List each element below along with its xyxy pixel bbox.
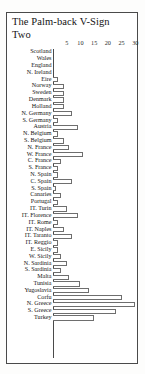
bar: [53, 179, 72, 184]
x-axis-tick-5: 5: [65, 39, 68, 46]
bar: [53, 261, 67, 266]
bar-row: C. Spain: [7, 178, 139, 185]
x-axis-tick-20: 20: [105, 39, 111, 46]
bar-row: N. Spain: [7, 172, 139, 179]
bar: [53, 145, 69, 150]
bar-row: N. Greece: [7, 301, 139, 308]
bar-row: Malta: [7, 274, 139, 281]
bar-row: Turkey: [7, 315, 139, 322]
chart-title: The Palm-back V-Sign Two: [12, 16, 136, 41]
bar: [53, 206, 67, 211]
x-axis-tick-15: 15: [91, 39, 97, 46]
x-axis-tick-30: 30: [132, 39, 138, 46]
bar-row: C. France: [7, 158, 139, 165]
bar-row: Eire: [7, 76, 139, 83]
bar-row: S. France: [7, 165, 139, 172]
bar: [53, 254, 61, 259]
x-axis-tick-10: 10: [77, 39, 83, 46]
x-axis-tick-25: 25: [118, 39, 124, 46]
bar-row: IT. Reggio: [7, 240, 139, 247]
bar: [53, 111, 72, 116]
bar-row: Canaries: [7, 192, 139, 199]
bar: [53, 288, 89, 293]
bar: [53, 77, 58, 82]
bar: [53, 152, 83, 157]
bar: [53, 118, 58, 123]
bar-row: Norway: [7, 83, 139, 90]
bar: [53, 234, 72, 239]
bar-row: W. France: [7, 151, 139, 158]
bar-row-label: Turkey: [34, 314, 51, 321]
bar: [53, 131, 58, 136]
bar-row: Wales: [7, 56, 139, 63]
bar: [53, 172, 58, 177]
bar: [53, 84, 64, 89]
bar: [53, 220, 58, 225]
bar: [53, 91, 64, 96]
bar: [53, 240, 58, 245]
bar: [53, 247, 58, 252]
bar: [53, 302, 135, 307]
chart-frame: The Palm-back V-Sign Two 51015202530 Sco…: [6, 12, 138, 364]
bar-row: Denmark: [7, 97, 139, 104]
bar-row: Sweden: [7, 90, 139, 97]
bar: [53, 97, 64, 102]
plot-area: ScotlandWalesEnglandN. IrelandEireNorway…: [7, 49, 139, 361]
bar: [53, 104, 64, 109]
bar-row: E. Sicily: [7, 247, 139, 254]
bar: [53, 138, 64, 143]
bar: [53, 309, 116, 314]
bar-row: S. Sardinia: [7, 267, 139, 274]
bar: [53, 295, 122, 300]
bar-row: Scotland: [7, 49, 139, 56]
bar: [53, 268, 61, 273]
bar: [53, 275, 69, 280]
bar: [53, 281, 80, 286]
bar: [53, 315, 94, 320]
bar-row: Portugal: [7, 199, 139, 206]
bar: [53, 200, 58, 205]
bar: [53, 159, 61, 164]
bar-row: S. Spain: [7, 185, 139, 192]
bar: [53, 193, 61, 198]
bar: [53, 125, 78, 130]
bar-row: Yugoslavia: [7, 287, 139, 294]
chart-title-line-1: The Palm-back V-Sign: [12, 16, 136, 29]
bar-rows: ScotlandWalesEnglandN. IrelandEireNorway…: [7, 49, 139, 322]
bar-row: IT. Florence: [7, 213, 139, 220]
bar-row: S. Germany: [7, 117, 139, 124]
chart-page: The Palm-back V-Sign Two 51015202530 Sco…: [0, 0, 145, 374]
bar: [53, 227, 64, 232]
bar: [53, 166, 58, 171]
bar: [53, 213, 78, 218]
bar-row: N. Ireland: [7, 69, 139, 76]
bar-row: S. Greece: [7, 308, 139, 315]
bar: [53, 186, 56, 191]
